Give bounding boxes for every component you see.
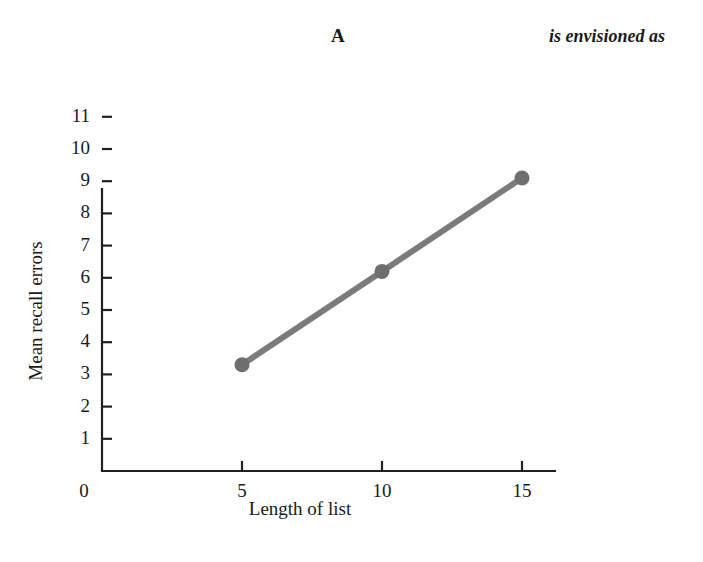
x-tick-label: 5 <box>222 481 262 501</box>
running-body-text: is envisioned as <box>549 25 665 47</box>
data-point-marker <box>235 357 250 372</box>
y-tick-label: 6 <box>60 267 90 287</box>
panel-label-a: A <box>331 25 345 47</box>
axes-group <box>101 188 556 472</box>
origin-tick-label: 0 <box>64 481 104 501</box>
y-axis-ticks <box>102 117 112 439</box>
y-tick-label: 8 <box>60 202 90 222</box>
y-tick-label: 9 <box>60 170 90 190</box>
y-tick-label: 3 <box>60 363 90 383</box>
y-axis-title: Mean recall errors <box>25 211 47 411</box>
data-series-group <box>235 171 530 373</box>
y-tick-label: 4 <box>60 331 90 351</box>
page-header: A is envisioned as <box>0 0 703 70</box>
y-tick-label: 7 <box>60 235 90 255</box>
x-tick-label: 15 <box>502 481 542 501</box>
y-tick-label: 10 <box>60 138 90 158</box>
line-chart-svg <box>0 70 703 562</box>
x-axis-title: Length of list <box>0 498 600 520</box>
data-point-marker <box>515 171 530 186</box>
data-point-marker <box>375 264 390 279</box>
y-tick-label: 11 <box>60 106 90 126</box>
figure-panel-a: Mean recall errors Length of list 123456… <box>0 70 703 562</box>
y-tick-label: 5 <box>60 299 90 319</box>
x-axis-ticks <box>242 461 522 471</box>
x-tick-label: 10 <box>362 481 402 501</box>
y-tick-label: 2 <box>60 396 90 416</box>
y-tick-label: 1 <box>60 428 90 448</box>
